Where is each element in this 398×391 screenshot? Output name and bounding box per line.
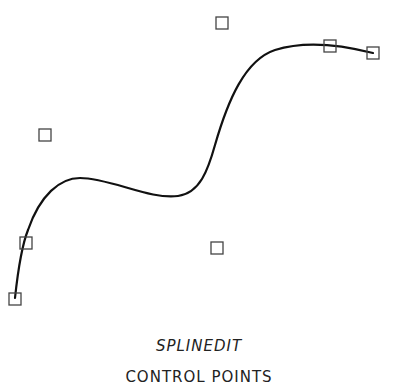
diagram-title: SPLINEDIT <box>0 337 398 355</box>
control-point-4[interactable] <box>211 242 223 254</box>
control-point-3[interactable] <box>39 129 51 141</box>
diagram-subtitle: CONTROL POINTS <box>0 368 398 386</box>
spline-diagram <box>0 0 398 391</box>
spline-curve <box>15 44 373 298</box>
control-point-5[interactable] <box>216 17 228 29</box>
